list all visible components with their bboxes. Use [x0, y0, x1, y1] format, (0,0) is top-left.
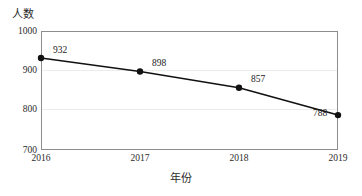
data-label-2016: 932 [40, 45, 80, 56]
line-chart: 人数 1000 900 800 700 932 898 857 788 2016… [0, 0, 362, 196]
gridline-900 [42, 70, 337, 71]
y-axis-title: 人数 [12, 8, 34, 21]
x-tick-label-2017: 2017 [120, 153, 160, 164]
x-axis-title: 年份 [0, 172, 362, 185]
data-label-2018: 857 [238, 74, 278, 85]
x-tick-label-2016: 2016 [21, 153, 61, 164]
x-tick-label-2018: 2018 [219, 153, 259, 164]
data-label-2019: 788 [300, 108, 340, 119]
x-tick-label-2019: 2019 [318, 153, 358, 164]
gridline-800 [42, 109, 337, 110]
data-label-2017: 898 [139, 58, 179, 69]
plot-area [41, 31, 338, 150]
y-tick-label-900: 900 [3, 65, 37, 75]
y-tick-label-1000: 1000 [3, 26, 37, 36]
y-tick-label-800: 800 [3, 104, 37, 114]
